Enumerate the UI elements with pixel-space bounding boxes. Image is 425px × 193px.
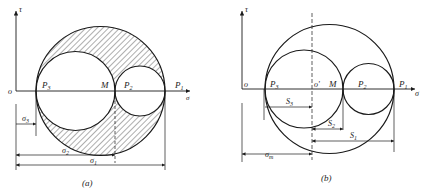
p3-label: P3: [269, 79, 279, 90]
sigma-axis-label: σ: [415, 89, 420, 98]
figure-b: τ o o' σ P3 M P2 P1 S3 S2 S1 σm (b): [242, 5, 420, 183]
sigma2-label: σ2: [62, 146, 69, 156]
p1-label: P1: [174, 80, 184, 91]
s2-label: S2: [328, 119, 335, 129]
p2-label: P2: [357, 79, 367, 90]
figure-a: τ o σ P3 M P2 P1 σ3 σ2 σ1 (a): [8, 5, 190, 188]
mohr-circles-diagram: τ o σ P3 M P2 P1 σ3 σ2 σ1 (a) τ o o': [0, 0, 425, 193]
sigma1-label: σ1: [90, 156, 97, 166]
caption-b: (b): [321, 173, 332, 183]
s3-label: S3: [286, 97, 293, 107]
origin-label: o: [8, 87, 12, 96]
tau-label: τ: [19, 5, 23, 14]
s1-label: S1: [350, 131, 357, 141]
sigma3-label: σ3: [22, 114, 29, 124]
center-label: o': [314, 80, 320, 89]
p1-label: P1: [398, 79, 408, 90]
m-label: M: [328, 79, 337, 89]
tau-label: τ: [245, 5, 249, 14]
caption-a: (a): [82, 178, 93, 188]
m-label: M: [100, 80, 109, 90]
sigma-axis-label: σ: [186, 94, 190, 102]
origin-label: o: [244, 80, 248, 89]
sigma-m-label: σm: [265, 150, 274, 160]
